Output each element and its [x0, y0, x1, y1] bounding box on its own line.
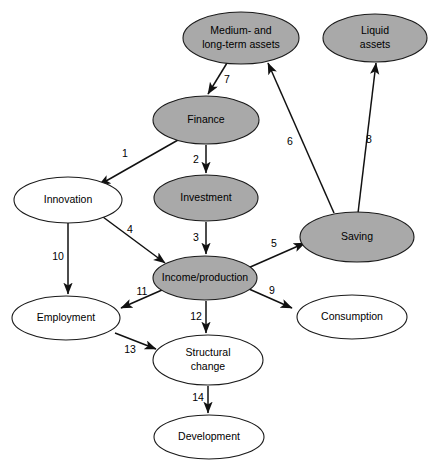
node-medium_long_assets[interactable]: Medium- andlong-term assets: [183, 12, 299, 64]
edge-line-1: [99, 140, 178, 185]
edge-4: 4: [103, 217, 165, 263]
edge-label-7: 7: [224, 73, 230, 85]
edge-9: 9: [249, 284, 292, 308]
edge-label-10: 10: [52, 250, 64, 262]
edge-10: 10: [52, 223, 68, 294]
node-label-finance: Finance: [187, 113, 225, 125]
node-label-investment: Investment: [180, 191, 231, 203]
edge-label-8: 8: [366, 133, 372, 145]
nodes-layer: Medium- andlong-term assetsLiquidassetsF…: [12, 12, 427, 459]
edge-label-1: 1: [122, 147, 128, 159]
node-liquid_assets[interactable]: Liquidassets: [323, 14, 427, 62]
edge-label-9: 9: [269, 284, 275, 296]
edge-11: 11: [121, 285, 162, 308]
edge-label-3: 3: [193, 231, 199, 243]
edge-label-4: 4: [127, 223, 133, 235]
diagram-canvas: 1234567891011121314 Medium- andlong-term…: [0, 0, 445, 471]
edge-5: 5: [248, 237, 305, 268]
edge-label-6: 6: [287, 135, 293, 147]
node-label-liquid_assets-line1: Liquid: [361, 24, 389, 36]
node-investment[interactable]: Investment: [154, 175, 258, 221]
node-label-employment: Employment: [37, 311, 95, 323]
edge-label-12: 12: [190, 310, 202, 322]
node-finance[interactable]: Finance: [153, 96, 259, 144]
edge-line-6: [268, 63, 334, 213]
flow-diagram: 1234567891011121314 Medium- andlong-term…: [0, 0, 445, 471]
node-income_production[interactable]: Income/production: [153, 256, 257, 300]
node-label-development: Development: [178, 430, 240, 442]
edge-label-2: 2: [193, 153, 199, 165]
edge-1: 1: [99, 140, 178, 185]
node-innovation[interactable]: Innovation: [14, 177, 122, 223]
node-label-medium_long_assets-line1: Medium- and: [210, 24, 271, 36]
edge-13: 13: [115, 333, 156, 355]
node-label-liquid_assets-line2: assets: [360, 38, 390, 50]
node-structural_change[interactable]: Structuralchange: [153, 335, 263, 385]
edge-line-4: [103, 217, 165, 263]
node-saving[interactable]: Saving: [300, 212, 414, 262]
node-label-medium_long_assets-line2: long-term assets: [202, 38, 280, 50]
node-label-income_production: Income/production: [162, 271, 249, 283]
edge-7: 7: [208, 63, 230, 94]
edge-2: 2: [193, 145, 206, 173]
node-employment[interactable]: Employment: [12, 296, 120, 340]
node-consumption[interactable]: Consumption: [297, 295, 407, 339]
edge-label-11: 11: [137, 285, 148, 297]
node-label-structural_change-line2: change: [191, 360, 226, 372]
edge-6: 6: [268, 63, 334, 213]
edge-label-13: 13: [124, 343, 136, 355]
node-label-structural_change-line1: Structural: [186, 346, 231, 358]
node-label-innovation: Innovation: [44, 193, 93, 205]
node-label-consumption: Consumption: [321, 310, 383, 322]
edge-label-5: 5: [271, 237, 277, 249]
edge-14: 14: [192, 386, 208, 413]
node-label-saving: Saving: [341, 230, 373, 242]
edge-label-14: 14: [192, 391, 204, 403]
edge-12: 12: [190, 301, 206, 333]
edge-3: 3: [193, 222, 206, 254]
node-development[interactable]: Development: [154, 415, 264, 459]
edge-8: 8: [358, 63, 376, 213]
